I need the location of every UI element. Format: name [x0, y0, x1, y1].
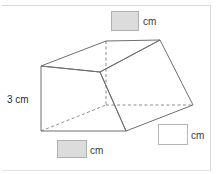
unit-label-right: cm [191, 131, 204, 141]
hidden-edge-diagonal [41, 105, 106, 131]
diagram-canvas: cm cm cm 3 cm [0, 0, 220, 174]
left-face [41, 66, 126, 131]
answer-box-bottom[interactable] [57, 140, 87, 158]
answer-box-top[interactable] [111, 11, 139, 31]
unit-label-top: cm [143, 17, 156, 27]
visible-edges [41, 40, 193, 131]
top-face [41, 40, 160, 72]
hidden-edges [41, 41, 193, 131]
answer-box-right[interactable] [158, 124, 188, 145]
prism-drawing [0, 0, 220, 174]
unit-label-bottom: cm [90, 146, 103, 156]
right-face [100, 40, 193, 131]
dimension-label-height: 3 cm [7, 95, 29, 105]
